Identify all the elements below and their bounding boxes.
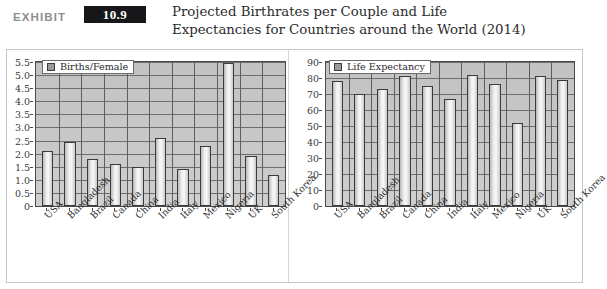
plot-wrap-births bbox=[35, 61, 286, 207]
y-tick-mark bbox=[30, 167, 33, 168]
y-tick-mark bbox=[319, 62, 322, 63]
exhibit-label: EXHIBIT bbox=[13, 11, 66, 23]
y-tick-mark bbox=[319, 142, 322, 143]
y-tick-label: 20 bbox=[307, 169, 319, 180]
y-tick-label: 10 bbox=[307, 185, 319, 196]
y-tick-label: 50 bbox=[307, 121, 319, 132]
y-tick-mark bbox=[30, 62, 33, 63]
legend-life: Life Expectancy bbox=[329, 60, 431, 74]
y-axis-births: 00.51.01.52.02.53.03.54.04.55.05.5 bbox=[8, 61, 33, 207]
bar-bangladesh bbox=[64, 142, 75, 206]
x-axis-life: USABangladeshBrazilCanadaChinaIndiaItaly… bbox=[325, 208, 575, 280]
bar-south-korea bbox=[557, 80, 568, 206]
title-line-1: Projected Birthrates per Couple and Life bbox=[172, 3, 582, 21]
y-tick-mark bbox=[30, 114, 33, 115]
y-tick-mark bbox=[319, 78, 322, 79]
legend-births: Births/Female bbox=[42, 60, 134, 74]
y-tick-mark bbox=[319, 158, 322, 159]
bars-births bbox=[36, 62, 285, 206]
exhibit-number-badge: 10.9 bbox=[84, 6, 146, 23]
y-tick-mark bbox=[319, 174, 322, 175]
y-tick-mark bbox=[30, 206, 33, 207]
y-tick-mark bbox=[30, 127, 33, 128]
legend-label-life: Life Expectancy bbox=[347, 62, 425, 72]
exhibit-header: EXHIBIT 10.9 Projected Birthrates per Co… bbox=[0, 0, 589, 52]
plot-area-births bbox=[35, 61, 286, 207]
y-tick-label: 1.5 bbox=[15, 161, 30, 172]
y-tick-label: 4.0 bbox=[15, 96, 30, 107]
y-tick-mark bbox=[30, 101, 33, 102]
bar-usa bbox=[332, 81, 343, 206]
y-tick-mark bbox=[30, 141, 33, 142]
bar-india bbox=[155, 138, 166, 206]
y-tick-mark bbox=[319, 110, 322, 111]
plot-area-life bbox=[325, 61, 575, 207]
legend-label-births: Births/Female bbox=[60, 62, 128, 72]
bar-nigeria bbox=[223, 63, 234, 206]
y-tick-label: 5.0 bbox=[15, 70, 30, 81]
y-tick-mark bbox=[30, 193, 33, 194]
y-tick-mark bbox=[319, 126, 322, 127]
bar-italy bbox=[177, 169, 188, 206]
page-title: Projected Birthrates per Couple and Life… bbox=[172, 3, 582, 38]
y-tick-label: 30 bbox=[307, 153, 319, 164]
y-tick-mark bbox=[30, 88, 33, 89]
bar-mexico bbox=[489, 84, 500, 206]
legend-swatch-icon bbox=[334, 63, 342, 71]
y-tick-label: 70 bbox=[307, 89, 319, 100]
chart-births-per-female: 00.51.01.52.02.53.03.54.04.55.05.5 USABa… bbox=[8, 51, 291, 281]
title-line-2: Expectancies for Countries around the Wo… bbox=[172, 21, 582, 39]
bar-canada bbox=[399, 76, 410, 206]
y-tick-label: 4.5 bbox=[15, 83, 30, 94]
y-tick-label: 80 bbox=[307, 73, 319, 84]
chart-life-expectancy: 0102030405060708090 USABangladeshBrazilC… bbox=[296, 51, 583, 281]
y-tick-mark bbox=[30, 180, 33, 181]
bars-life bbox=[326, 62, 574, 206]
y-tick-mark bbox=[30, 75, 33, 76]
bar-bangladesh bbox=[354, 94, 365, 206]
y-tick-mark bbox=[319, 190, 322, 191]
y-tick-label: 2.0 bbox=[15, 148, 30, 159]
bar-usa bbox=[42, 151, 53, 206]
bar-mexico bbox=[200, 146, 211, 206]
y-tick-label: 3.5 bbox=[15, 109, 30, 120]
bar-india bbox=[444, 99, 455, 206]
y-tick-label: 90 bbox=[307, 57, 319, 68]
y-tick-mark bbox=[30, 154, 33, 155]
y-tick-label: 60 bbox=[307, 105, 319, 116]
bar-south-korea bbox=[268, 175, 279, 206]
plot-wrap-life bbox=[325, 61, 575, 207]
bar-italy bbox=[467, 75, 478, 206]
y-tick-label: 2.5 bbox=[15, 135, 30, 146]
y-tick-label: 40 bbox=[307, 137, 319, 148]
y-tick-label: 0.5 bbox=[15, 187, 30, 198]
y-tick-label: 1.0 bbox=[15, 174, 30, 185]
x-axis-births: USABangladeshBrazilCanadaChinaIndiaItaly… bbox=[35, 208, 286, 280]
legend-swatch-icon bbox=[47, 63, 55, 71]
bar-uk bbox=[535, 76, 546, 206]
y-tick-mark bbox=[319, 94, 322, 95]
y-axis-life: 0102030405060708090 bbox=[296, 61, 322, 207]
y-tick-mark bbox=[319, 206, 322, 207]
y-tick-label: 5.5 bbox=[15, 57, 30, 68]
y-tick-label: 3.0 bbox=[15, 122, 30, 133]
